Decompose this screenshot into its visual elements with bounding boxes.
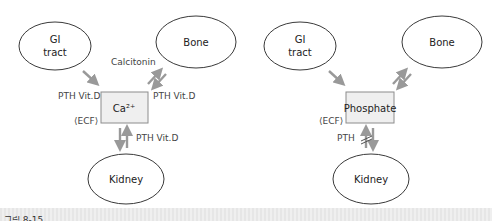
calcium-diagram: GI tract Bone Ca²⁺ Kidney PTH Vit.D Calc… <box>19 16 236 204</box>
bone-pth-vitd-label: PTH Vit.D <box>153 91 195 101</box>
gi-tract-node <box>19 22 91 70</box>
gi-tract-label-line1: GI <box>50 34 61 45</box>
gi-pth-vitd-label: PTH Vit.D <box>58 91 100 101</box>
phosphate-diagram: GI tract Bone Phosphate Kidney ⟨ECF⟩ PTH <box>264 16 482 204</box>
gi-tract-node <box>264 22 336 70</box>
caption-band <box>0 208 492 221</box>
gi-to-calcium-arrow <box>83 71 95 82</box>
kidney-label: Kidney <box>354 174 388 185</box>
ecf-label: ⟨ECF⟩ <box>74 116 98 126</box>
gi-tract-label-line2: tract <box>43 47 67 58</box>
bone-label: Bone <box>183 37 208 48</box>
kidney-label: Kidney <box>109 174 143 185</box>
kidney-pth-label: PTH <box>337 133 355 143</box>
figure-caption: 그림 8-15 <box>4 216 43 221</box>
kidney-pth-vitd-label: PTH Vit.D <box>136 133 178 143</box>
gi-tract-label-line2: tract <box>288 47 312 58</box>
gi-tract-label-line1: GI <box>295 34 306 45</box>
gi-to-phosphate-arrow <box>329 71 341 82</box>
bone-label: Bone <box>429 37 454 48</box>
calcium-label: Ca²⁺ <box>113 103 135 114</box>
ecf-label: ⟨ECF⟩ <box>319 116 343 126</box>
calcitonin-label: Calcitonin <box>111 57 156 67</box>
phosphate-label: Phosphate <box>344 103 397 114</box>
diagram-canvas: GI tract Bone Ca²⁺ Kidney PTH Vit.D Calc… <box>0 0 492 221</box>
